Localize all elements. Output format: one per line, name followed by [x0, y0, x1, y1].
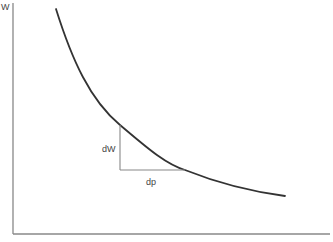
demand-curve [56, 9, 285, 196]
diagram-canvas: W dW dp [0, 0, 333, 242]
y-axis-label: W [1, 2, 10, 12]
dw-label: dW [102, 144, 116, 154]
dp-label: dp [146, 177, 156, 187]
